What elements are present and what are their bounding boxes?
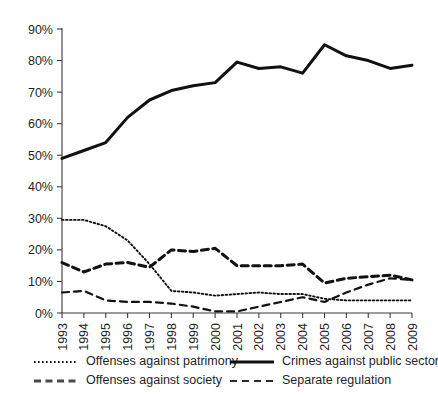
- legend-label: Offenses against society: [86, 373, 223, 387]
- line-chart: 0%10%20%30%40%50%60%70%80%90% 1993199419…: [0, 0, 438, 397]
- x-tick-label: 2002: [252, 323, 266, 351]
- x-tick-label: 2007: [362, 323, 376, 351]
- legend-item-offenses-against-patrimony: Offenses against patrimony: [34, 354, 239, 368]
- x-tick-label: 1999: [187, 323, 201, 351]
- x-tick-label: 1998: [165, 323, 179, 351]
- x-tick-label: 1994: [77, 323, 91, 351]
- legend-item-separate-regulation: Separate regulation: [230, 373, 391, 387]
- series-line-crimes-against-public-sector: [62, 45, 412, 159]
- x-tick-label: 1996: [121, 323, 135, 351]
- x-tick-label: 2004: [296, 323, 310, 351]
- y-tick-label: 80%: [28, 54, 53, 68]
- y-tick-label: 40%: [28, 180, 53, 194]
- y-tick-label: 70%: [28, 86, 53, 100]
- y-tick-label: 20%: [28, 243, 53, 257]
- x-tick-label: 1993: [56, 323, 70, 351]
- legend-item-crimes-against-public-sector: Crimes against public sector: [230, 354, 438, 368]
- x-tick-label: 2008: [384, 323, 398, 351]
- x-tick-label: 2005: [318, 323, 332, 351]
- y-tick-label: 30%: [28, 212, 53, 226]
- y-tick-label: 50%: [28, 149, 53, 163]
- y-axis-ticks: 0%10%20%30%40%50%60%70%80%90%: [28, 23, 62, 321]
- chart-legend: Offenses against patrimonyCrimes against…: [34, 354, 438, 387]
- legend-label: Separate regulation: [282, 373, 391, 387]
- y-tick-label: 10%: [28, 275, 53, 289]
- x-tick-label: 1997: [143, 323, 157, 351]
- series-group: [62, 45, 412, 312]
- x-tick-label: 2003: [274, 323, 288, 351]
- x-tick-label: 2000: [209, 323, 223, 351]
- legend-item-offenses-against-society: Offenses against society: [34, 373, 223, 387]
- y-tick-label: 60%: [28, 117, 53, 131]
- legend-label: Crimes against public sector: [282, 354, 438, 368]
- series-line-offenses-against-society: [62, 248, 412, 283]
- y-tick-label: 0%: [35, 307, 53, 321]
- legend-label: Offenses against patrimony: [86, 354, 239, 368]
- chart-canvas: 0%10%20%30%40%50%60%70%80%90% 1993199419…: [0, 0, 438, 397]
- x-tick-label: 2006: [340, 323, 354, 351]
- x-tick-label: 1995: [99, 323, 113, 351]
- y-tick-label: 90%: [28, 23, 53, 37]
- x-tick-label: 2001: [231, 323, 245, 351]
- x-tick-label: 2009: [406, 323, 420, 351]
- x-axis-ticks: 1993199419951996199719981999200020012002…: [56, 313, 420, 351]
